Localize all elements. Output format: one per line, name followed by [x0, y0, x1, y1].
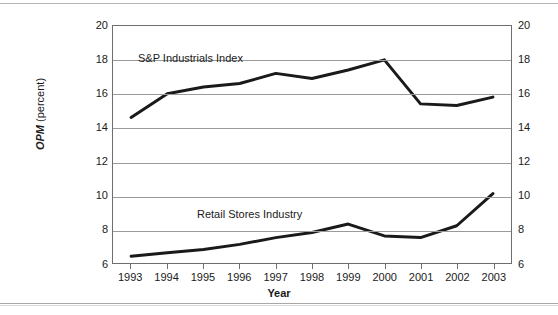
x-axis-title: Year [0, 287, 558, 299]
y-tick-label-right: 16 [518, 88, 530, 99]
series-line [131, 194, 493, 257]
x-tick-mark [239, 264, 240, 269]
y-tick-label-right: 10 [518, 190, 530, 201]
y-tick-label-left: 6 [102, 259, 108, 270]
x-tick-mark [457, 264, 458, 269]
y-tick-label-right: 6 [518, 259, 524, 270]
y-tick-label-left: 18 [96, 54, 108, 65]
y-tick-label-left: 20 [96, 20, 108, 31]
x-tick-mark [348, 264, 349, 269]
y-axis-left-ticks: 68101214161820 [84, 25, 108, 264]
y-tick-label-right: 20 [518, 20, 530, 31]
y-axis-right-ticks: 68101214161820 [518, 25, 546, 264]
y-axis-title: OPM (percent) [34, 59, 46, 169]
x-tick-mark [276, 264, 277, 269]
y-tick-label-left: 16 [96, 88, 108, 99]
y-tick-label-right: 18 [518, 54, 530, 65]
gridline [113, 197, 511, 198]
x-tick-mark [385, 264, 386, 269]
y-axis-title-plain: (percent) [34, 78, 46, 125]
y-tick-label-left: 12 [96, 156, 108, 167]
x-tick-mark [421, 264, 422, 269]
y-tick-label-right: 8 [518, 224, 524, 235]
gridline [113, 94, 511, 95]
gridline [113, 231, 511, 232]
x-tick-mark [494, 264, 495, 269]
y-tick-label-right: 14 [518, 122, 530, 133]
line-chart: 68101214161820 68101214161820 OPM (perce… [0, 0, 558, 315]
series-label-sp: S&P Industrials Index [138, 52, 243, 64]
x-tick-mark [130, 264, 131, 269]
y-axis-title-emphasis: OPM [34, 125, 46, 150]
y-tick-label-left: 14 [96, 122, 108, 133]
x-tick-mark [203, 264, 204, 269]
series-line [131, 60, 493, 118]
x-tick-mark [167, 264, 168, 269]
y-tick-label-left: 8 [102, 224, 108, 235]
series-label-retail: Retail Stores Industry [197, 208, 302, 220]
x-tick-mark [312, 264, 313, 269]
y-tick-label-left: 10 [96, 190, 108, 201]
gridline [113, 128, 511, 129]
gridline [113, 163, 511, 164]
x-tick-label: 2003 [472, 271, 516, 283]
y-tick-label-right: 12 [518, 156, 530, 167]
